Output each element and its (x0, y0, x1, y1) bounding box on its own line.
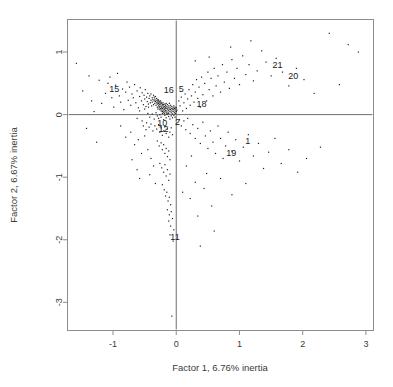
data-point (86, 128, 87, 129)
data-point (182, 192, 183, 193)
data-point (149, 127, 150, 128)
data-point (157, 115, 158, 116)
data-point (169, 174, 170, 175)
data-point (197, 128, 198, 129)
data-point (175, 108, 176, 109)
data-point (159, 106, 160, 107)
data-point (195, 92, 196, 93)
data-point (170, 109, 171, 110)
data-point (200, 143, 201, 144)
data-point (165, 105, 166, 106)
data-point (169, 159, 170, 160)
point-label-18: 18 (197, 99, 207, 109)
data-point (147, 149, 148, 150)
data-point (212, 142, 213, 143)
data-point (168, 116, 169, 117)
data-point (348, 44, 349, 45)
point-label-20: 20 (288, 71, 298, 81)
y-tick-label: -3 (54, 298, 64, 306)
data-point (117, 73, 118, 74)
point-label-21: 21 (272, 60, 282, 70)
data-point (140, 87, 141, 88)
data-point (158, 105, 159, 106)
data-point (183, 102, 184, 103)
data-point (161, 102, 162, 103)
data-point (157, 108, 158, 109)
data-point (159, 109, 160, 110)
data-point (153, 95, 154, 96)
data-point (173, 115, 174, 116)
data-point (144, 98, 145, 99)
data-point (186, 108, 187, 109)
data-point (171, 127, 172, 128)
data-point (234, 78, 235, 79)
point-label-2: 2 (175, 117, 180, 127)
data-point (158, 103, 159, 104)
data-point (149, 98, 150, 99)
point-label-1: 1 (245, 136, 250, 146)
data-point (172, 117, 173, 118)
data-point (171, 211, 172, 212)
data-point (179, 105, 180, 106)
data-point (205, 135, 206, 136)
data-point (253, 80, 254, 81)
data-point (149, 95, 150, 96)
data-point (120, 125, 121, 126)
data-point (172, 134, 173, 135)
data-point (154, 98, 155, 99)
data-point (155, 100, 156, 101)
data-point (152, 130, 153, 131)
data-point (148, 107, 149, 108)
data-point (161, 110, 162, 111)
data-point (209, 57, 210, 58)
data-point (168, 220, 169, 221)
data-point (141, 100, 142, 101)
data-point (164, 115, 165, 116)
data-point (167, 112, 168, 113)
data-point (157, 103, 158, 104)
data-point (167, 107, 168, 108)
data-point (195, 60, 196, 61)
data-point (170, 204, 171, 205)
data-point (296, 68, 297, 69)
data-point (185, 129, 186, 130)
data-point (150, 93, 151, 94)
data-point (130, 105, 131, 106)
data-point (166, 112, 167, 113)
data-point (164, 108, 165, 109)
data-point (167, 108, 168, 109)
data-point (162, 184, 163, 185)
data-point (155, 96, 156, 97)
data-point (271, 75, 272, 76)
data-point (96, 142, 97, 143)
data-point (171, 316, 172, 317)
x-tick-label: 1 (237, 339, 242, 349)
data-point (167, 156, 168, 157)
data-point (91, 100, 92, 101)
data-point (165, 107, 166, 108)
data-point (297, 172, 298, 173)
data-point (154, 103, 155, 104)
data-point (160, 100, 161, 101)
data-point (163, 172, 164, 173)
data-point (139, 178, 140, 179)
data-point (212, 95, 213, 96)
data-point (169, 103, 170, 104)
data-point (150, 123, 151, 124)
data-point (172, 218, 173, 219)
data-point (250, 40, 251, 41)
data-point (164, 109, 165, 110)
data-point (144, 135, 145, 136)
data-point (149, 174, 150, 175)
data-point (288, 149, 289, 150)
point-label-12: 12 (159, 124, 169, 134)
data-point (159, 163, 160, 164)
data-point (99, 80, 100, 81)
data-point (82, 90, 83, 91)
data-point (192, 84, 193, 85)
data-point (133, 97, 134, 98)
data-point (145, 89, 146, 90)
data-point (158, 100, 159, 101)
data-point (162, 110, 163, 111)
data-point (171, 115, 172, 116)
